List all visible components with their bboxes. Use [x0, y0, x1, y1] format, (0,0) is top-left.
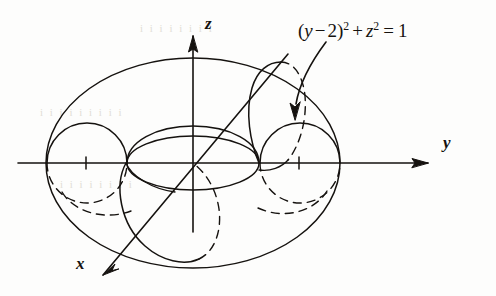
back-generating-circle-lower [259, 160, 288, 170]
torus-drawing [0, 0, 496, 296]
equation-constant-2: 2 [327, 20, 337, 41]
equation-equals-sign: = [383, 20, 394, 41]
equation-variable-y: y [304, 20, 312, 41]
z-axis-arrowhead [189, 36, 198, 52]
equation-annotation-arrow [296, 42, 326, 104]
equation-annotation-arrowhead [290, 102, 300, 120]
equation-plus-sign: + [352, 20, 363, 41]
front-generating-circle-solid [120, 163, 199, 262]
generating-circle-left-solid [47, 123, 127, 163]
z-axis-label: z [205, 14, 212, 34]
figure-container: i i i i i i i i i i i i i i i i i i i i … [0, 0, 496, 296]
equation-exponent-second: 2 [373, 20, 379, 33]
y-axis-label: y [443, 133, 451, 153]
x-axis-label: x [76, 254, 85, 274]
tube-underside-hidden-right [258, 191, 327, 214]
equation-result-1: 1 [398, 20, 408, 41]
equation-minus-sign: − [315, 20, 326, 41]
equation-exponent-first: 2 [343, 20, 349, 33]
generating-circle-right-solid [260, 123, 340, 163]
equation-annotation: (y−2)2+z2=1 [298, 20, 407, 42]
generating-circle-left-hidden [47, 163, 127, 203]
y-axis-arrowhead [412, 159, 428, 168]
front-generating-circle-hidden [193, 163, 220, 259]
